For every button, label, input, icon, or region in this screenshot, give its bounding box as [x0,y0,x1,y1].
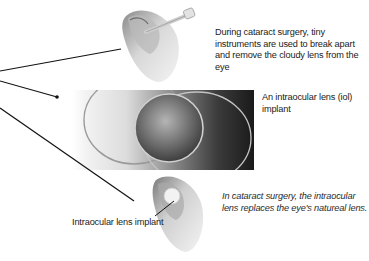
caption-instruments: During cataract surgery, tiny instrument… [215,27,365,73]
leader-line-top [0,49,121,71]
cataract-surgery-diagram: During cataract surgery, tiny instrument… [0,0,369,261]
leader-line-bottom [0,108,134,201]
implant-label: Intraocular lens implant [72,217,163,227]
caption-replacement: In cataract surgery, the intraocular len… [222,191,369,214]
implant-pointer-line [155,201,174,216]
leader-dot [55,95,59,99]
caption-iol: An intraocular lens (iol) implant [262,92,367,115]
leader-line-middle [0,81,57,97]
